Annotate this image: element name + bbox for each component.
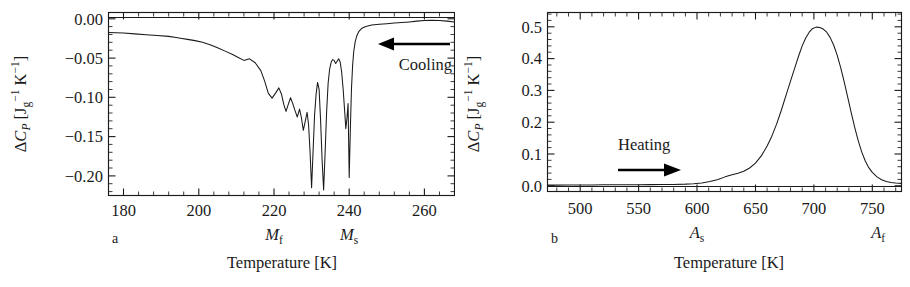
xtick-label: 650 [743,199,768,218]
heating-annotation-label: Heating [618,135,670,154]
ytick-label: −0.15 [65,127,103,146]
ytick-label: −0.05 [65,49,103,68]
panel-a-cooling: ΔCP [Jg−1 K−1] 0.00−0.05−0.10−0.15−0.20 … [0,0,455,287]
svg-text:ΔCP [Jg−1 K−1]: ΔCP [Jg−1 K−1] [462,56,486,153]
xtick-label: 200 [186,201,211,220]
panel-b-heating: ΔCP [Jg−1 K−1] 0.00.10.20.30.40.5 500550… [455,0,910,287]
panel-b-transition-labels: AsAf [689,223,886,244]
panel-a-xlabel: Temperature [K] [227,253,337,272]
panel-a-xtick-labels: 180200220240260 [111,201,437,220]
ytick-label: −0.10 [65,88,103,107]
transition-temperature-label: Ms [339,225,359,246]
cooling-annotation-label: Cooling [399,55,452,74]
ytick-label: 0.4 [521,49,542,68]
xtick-label: 750 [860,199,885,218]
transition-temperature-label: As [689,223,705,244]
xtick-label: 240 [337,201,362,220]
xtick-label: 500 [568,199,593,218]
heating-arrow-icon [618,164,681,177]
panel-b-xtick-labels: 500550600650700750 [568,199,885,218]
xtick-label: 700 [802,199,827,218]
xtick-label: 600 [685,199,710,218]
xtick-label: 220 [262,201,287,220]
ytick-label: 0.3 [521,81,542,100]
ytick-label: 0.1 [521,145,542,164]
panel-a-svg: ΔCP [Jg−1 K−1] 0.00−0.05−0.10−0.15−0.20 … [0,0,455,287]
xtick-label: 260 [412,201,437,220]
panel-b-ytick-labels: 0.00.10.20.30.40.5 [521,18,542,196]
transition-temperature-label: Af [870,223,885,244]
panel-a-ylabel: ΔCP [Jg−1 K−1] [9,56,33,153]
transition-temperature-label: Mf [264,225,283,246]
panel-b-data-curve [548,27,902,185]
panel-b-svg: ΔCP [Jg−1 K−1] 0.00.10.20.30.40.5 500550… [455,0,910,287]
ytick-label: 0.2 [521,113,542,132]
panel-a-plot-frame [109,13,455,196]
ytick-label: 0.5 [521,18,542,37]
ytick-label: −0.20 [65,167,103,186]
panel-b-ylabel: ΔCP [Jg−1 K−1] [462,56,486,153]
svg-text:ΔCP [Jg−1 K−1]: ΔCP [Jg−1 K−1] [9,56,33,153]
panel-b-letter: b [551,231,558,246]
xtick-label: 550 [626,199,651,218]
xtick-label: 180 [111,201,136,220]
panel-a-letter: a [112,231,119,246]
ytick-label: 0.0 [521,177,542,196]
figure-container: ΔCP [Jg−1 K−1] 0.00−0.05−0.10−0.15−0.20 … [0,0,910,287]
cooling-arrow-icon [378,38,450,51]
panel-a-ytick-labels: 0.00−0.05−0.10−0.15−0.20 [65,10,103,186]
panel-a-tickmarks [109,13,455,196]
panel-b-xlabel: Temperature [K] [674,253,784,272]
panel-a-transition-labels: MfMs [264,225,359,246]
panel-a-data-curve [109,20,455,190]
ytick-label: 0.00 [74,10,103,29]
